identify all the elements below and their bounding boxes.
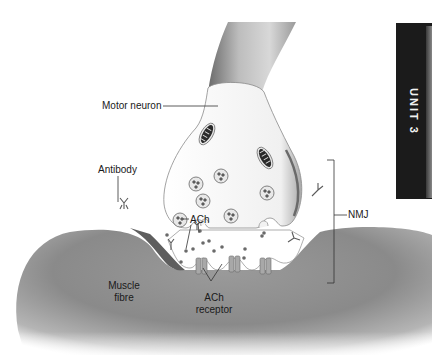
label-ach: ACh xyxy=(190,214,209,226)
label-ach-receptor-line2: receptor xyxy=(192,304,236,316)
label-muscle-fibre: Muscle fibre xyxy=(104,280,144,304)
vesicle xyxy=(224,209,238,223)
vesicle xyxy=(189,177,203,191)
label-ach-receptor-line1: ACh xyxy=(192,292,236,304)
label-nmj: NMJ xyxy=(348,209,369,221)
antibody-icon xyxy=(312,183,323,196)
label-muscle-fibre-line1: Muscle xyxy=(104,280,144,292)
axon-terminal xyxy=(164,82,302,228)
unit-side-tab-edge xyxy=(426,26,432,198)
label-antibody: Antibody xyxy=(98,164,137,176)
vesicle xyxy=(173,213,187,227)
nmj-diagram: Motor neuron Antibody ACh NMJ Muscle fib… xyxy=(0,0,432,359)
label-motor-neuron: Motor neuron xyxy=(102,100,161,112)
vesicle xyxy=(260,186,274,200)
label-muscle-fibre-line2: fibre xyxy=(104,292,144,304)
unit-side-tab-label: UNIT 3 xyxy=(408,88,420,135)
antibody-icon xyxy=(120,198,128,209)
vesicle xyxy=(214,169,228,183)
motor-neuron-axon xyxy=(208,22,296,92)
vesicle xyxy=(196,194,210,208)
label-ach-receptor: ACh receptor xyxy=(192,292,236,316)
